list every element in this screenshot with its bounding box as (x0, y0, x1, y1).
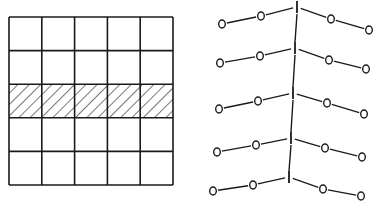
bond (293, 178, 319, 187)
oxygen-atom (322, 144, 329, 152)
bond (334, 61, 361, 68)
bond (218, 186, 248, 191)
bond (332, 104, 359, 112)
bond (299, 49, 325, 58)
bond (263, 94, 289, 100)
iodine-bond (289, 145, 291, 171)
bond (297, 94, 322, 101)
bond (261, 139, 287, 144)
oxygen-atom (320, 185, 327, 193)
oxygen-atom (324, 99, 331, 107)
oxygen-atom (258, 12, 265, 20)
bond (328, 190, 356, 195)
bond (225, 57, 255, 62)
molecule-row (217, 42, 370, 73)
bond (301, 8, 327, 17)
oxygen-atom (216, 105, 223, 113)
oxygen-atom (255, 97, 262, 105)
oxygen-atom (253, 141, 260, 149)
iodine-bond (291, 100, 293, 132)
oxygen-atom (210, 187, 217, 195)
bond (336, 20, 364, 28)
molecule-row (210, 171, 365, 200)
oxygen-atom (214, 148, 221, 156)
bond (258, 178, 285, 184)
bond (295, 139, 320, 146)
oxygen-atom (363, 65, 370, 73)
oxygen-atom (250, 181, 257, 189)
bond (224, 102, 253, 108)
bond (266, 8, 293, 15)
oxygen-atom (361, 110, 368, 118)
oxygen-atom (359, 153, 366, 161)
chain-panel (210, 1, 373, 200)
oxygen-atom (328, 15, 335, 23)
oxygen-atom (358, 192, 365, 200)
iodine-bond (295, 14, 297, 42)
oxygen-atom (366, 26, 373, 34)
bond (330, 149, 357, 156)
bond (227, 17, 256, 23)
grid-panel (9, 17, 173, 185)
oxygen-atom (219, 20, 226, 28)
oxygen-atom (217, 59, 224, 67)
figure (0, 0, 378, 206)
oxygen-atom (326, 56, 333, 64)
bond (265, 49, 291, 55)
oxygen-atom (257, 52, 264, 60)
bond (222, 146, 251, 151)
iodine-bond (293, 55, 295, 87)
hatched-row (9, 84, 173, 118)
